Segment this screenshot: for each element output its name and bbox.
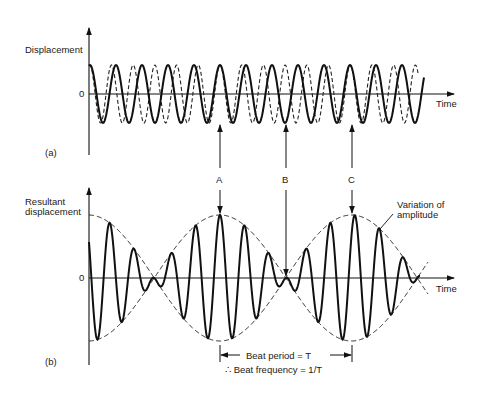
envelope-label-leader bbox=[380, 214, 393, 229]
panel-a-time-label: Time bbox=[436, 98, 457, 109]
beat-period-label: Beat period = T bbox=[246, 350, 311, 361]
panel-b-time-label: Time bbox=[436, 283, 457, 294]
marker-a-label: A bbox=[216, 174, 222, 185]
beats-diagram: Displacement 0 Time (a) A B C Resultant … bbox=[0, 0, 480, 393]
panel-b-zero-label: 0 bbox=[79, 272, 84, 283]
resultant-wave bbox=[89, 215, 420, 340]
marker-c-label: C bbox=[348, 174, 355, 185]
beat-frequency-label: ∴ Beat frequency = 1/T bbox=[225, 364, 322, 375]
diagram-canvas bbox=[0, 0, 480, 393]
panel-b-y-label-line2: displacement bbox=[25, 206, 81, 217]
envelope-label-line2: amplitude bbox=[397, 209, 438, 220]
panel-a-zero-label: 0 bbox=[79, 88, 84, 99]
panel-a-tag: (a) bbox=[45, 147, 57, 158]
panel-a-y-label: Displacement bbox=[25, 44, 83, 55]
marker-b-label: B bbox=[282, 174, 288, 185]
panel-b-tag: (b) bbox=[45, 356, 57, 367]
